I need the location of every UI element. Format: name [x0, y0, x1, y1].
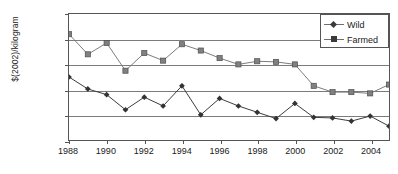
data-point-farmed	[123, 68, 128, 73]
x-tick-mark	[107, 140, 108, 144]
data-point-farmed	[69, 32, 72, 37]
x-tick-mark	[221, 140, 222, 144]
data-point-farmed	[386, 82, 389, 87]
data-point-farmed	[330, 90, 335, 95]
data-point-farmed	[104, 40, 109, 45]
series-line-wild	[69, 77, 389, 126]
x-tick-label: 1988	[48, 146, 88, 156]
data-point-farmed	[85, 52, 90, 57]
data-point-farmed	[161, 58, 166, 63]
x-tick-mark	[145, 140, 146, 144]
legend-label-wild: Wild	[344, 20, 365, 30]
chart-container: $(2002)/kilogram 0.002.004.006.008.0010.…	[0, 0, 398, 174]
x-tick-mark	[296, 140, 297, 144]
data-point-wild	[236, 103, 242, 109]
data-point-wild	[348, 118, 354, 124]
legend-item-farmed[interactable]: Farmed	[324, 32, 385, 47]
x-tick-mark	[183, 140, 184, 144]
x-tick-mark	[258, 140, 259, 144]
data-point-wild	[254, 109, 260, 115]
x-tick-label: 1990	[86, 146, 126, 156]
data-point-farmed	[349, 90, 354, 95]
data-point-farmed	[236, 62, 241, 67]
data-point-farmed	[198, 48, 203, 53]
legend-item-wild[interactable]: Wild	[324, 17, 385, 32]
x-tick-label: 2002	[313, 146, 353, 156]
x-tick-label: 1994	[162, 146, 202, 156]
x-tick-label: 1998	[237, 146, 277, 156]
y-axis-title: $(2002)/kilogram	[10, 0, 20, 112]
farmed-marker-icon	[324, 34, 344, 45]
x-tick-label: 2004	[351, 146, 391, 156]
data-point-farmed	[179, 42, 184, 47]
data-point-farmed	[255, 59, 260, 64]
x-tick-mark	[69, 140, 70, 144]
data-point-farmed	[273, 59, 278, 64]
x-tick-label: 2000	[275, 146, 315, 156]
data-point-wild	[141, 94, 147, 100]
data-point-wild	[367, 113, 373, 119]
x-tick-label: 1996	[200, 146, 240, 156]
data-point-wild	[386, 123, 389, 129]
x-tick-mark	[372, 140, 373, 144]
data-point-farmed	[217, 56, 222, 61]
data-point-farmed	[292, 62, 297, 67]
data-point-wild	[85, 86, 91, 92]
data-point-farmed	[368, 91, 373, 96]
wild-marker-icon	[324, 19, 344, 30]
legend: Wild Farmed	[320, 14, 389, 48]
x-tick-label: 1992	[124, 146, 164, 156]
data-point-farmed	[311, 83, 316, 88]
x-tick-mark	[334, 140, 335, 144]
data-point-wild	[330, 115, 336, 121]
legend-label-farmed: Farmed	[344, 35, 378, 45]
data-point-farmed	[142, 51, 147, 56]
